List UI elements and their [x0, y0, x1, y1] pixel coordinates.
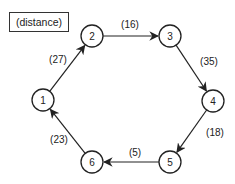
- node-label: 6: [89, 157, 95, 168]
- node-label: 1: [40, 95, 46, 106]
- node-5: 5: [159, 151, 181, 173]
- edge-weight-label: (35): [200, 56, 218, 67]
- edge-weight-label: (5): [129, 147, 141, 158]
- node-6: 6: [81, 151, 103, 173]
- edge-weight-label: (23): [50, 134, 68, 145]
- edge-weight-label: (27): [49, 54, 67, 65]
- node-label: 5: [167, 157, 173, 168]
- edge-weight-label: (18): [206, 127, 224, 138]
- arrow-line: [176, 45, 206, 91]
- edge-3-to-4: (35): [176, 45, 218, 91]
- edge-2-to-3: (16): [103, 19, 158, 37]
- arrow-line: [50, 109, 85, 153]
- edges-layer: (27)(16)(35)(18)(5)(23): [49, 19, 224, 163]
- node-2: 2: [81, 25, 103, 47]
- edge-1-to-2: (27): [49, 46, 85, 92]
- edge-6-to-1: (23): [50, 109, 85, 153]
- arrow-line: [50, 46, 85, 92]
- edge-4-to-5: (18): [177, 110, 224, 152]
- edge-5-to-6: (5): [104, 147, 159, 163]
- node-label: 4: [210, 96, 216, 107]
- node-3: 3: [159, 25, 181, 47]
- edge-weight-label: (16): [121, 19, 139, 30]
- node-4: 4: [202, 90, 224, 112]
- node-1: 1: [32, 89, 54, 111]
- node-label: 3: [167, 31, 173, 42]
- network-diagram: (27)(16)(35)(18)(5)(23) 123456: [0, 0, 235, 184]
- node-label: 2: [89, 31, 95, 42]
- arrow-line: [177, 110, 207, 152]
